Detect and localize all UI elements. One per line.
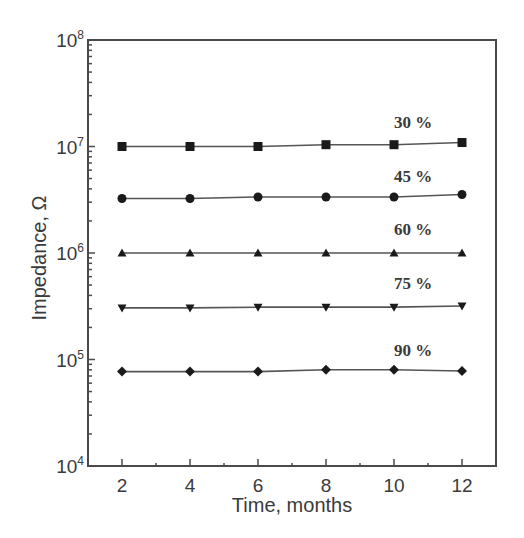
y-axis-ticks: 104105106107108 (56, 28, 95, 477)
diamond-marker (185, 367, 195, 377)
y-axis-title: Impedance, Ω (28, 195, 50, 320)
series-line (122, 306, 462, 308)
diamond-marker (321, 365, 331, 375)
square-marker (118, 142, 127, 151)
y-tick-label: 106 (56, 241, 84, 264)
series-line (122, 370, 462, 372)
series-75-percent (118, 302, 467, 312)
y-tick-label: 104 (56, 454, 84, 477)
x-tick-label: 4 (185, 475, 196, 496)
diamond-marker (389, 365, 399, 375)
x-axis-title: Time, months (232, 494, 352, 516)
series-label: 90 % (394, 341, 432, 360)
series-30-percent (118, 138, 467, 151)
circle-marker (186, 194, 195, 203)
x-tick-label: 8 (321, 475, 332, 496)
series-label: 60 % (394, 220, 432, 239)
diamond-marker (117, 367, 127, 377)
circle-marker (390, 192, 399, 201)
y-tick-label: 107 (56, 135, 84, 158)
square-marker (254, 142, 263, 151)
x-tick-label: 10 (383, 475, 404, 496)
circle-marker (322, 192, 331, 201)
x-axis-ticks: 24681012 (88, 459, 496, 496)
square-marker (186, 142, 195, 151)
x-tick-label: 2 (117, 475, 128, 496)
square-marker (390, 140, 399, 149)
diamond-marker (253, 367, 263, 377)
series-90-percent (117, 365, 467, 377)
square-marker (322, 140, 331, 149)
circle-marker (254, 192, 263, 201)
series-60-percent (118, 249, 467, 257)
y-tick-label: 108 (56, 28, 84, 51)
x-tick-label: 6 (253, 475, 264, 496)
series-label: 75 % (394, 274, 432, 293)
series-label: 45 % (394, 167, 432, 186)
diamond-marker (457, 366, 467, 376)
series-label: 30 % (394, 113, 432, 132)
impedance-vs-time-chart: 104105106107108 24681012 30 %45 %60 %75 … (0, 0, 524, 538)
circle-marker (118, 194, 127, 203)
y-tick-label: 105 (56, 348, 84, 371)
series-line (122, 143, 462, 147)
series-line (122, 195, 462, 199)
square-marker (458, 138, 467, 147)
circle-marker (458, 190, 467, 199)
series-labels: 30 %45 %60 %75 %90 % (394, 113, 432, 360)
x-tick-label: 12 (451, 475, 472, 496)
series-45-percent (118, 190, 467, 203)
